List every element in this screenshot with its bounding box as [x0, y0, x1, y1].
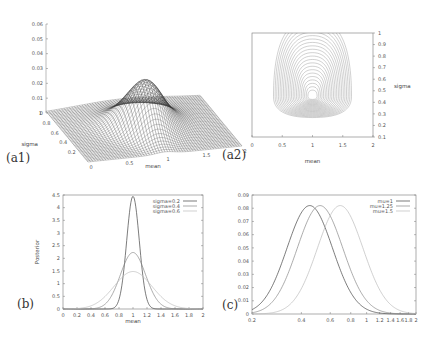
x-axis-label: mean	[305, 158, 321, 164]
y-tick-label: 0.7	[378, 64, 386, 70]
x-tick-label: 0.2	[248, 317, 256, 323]
mesh-line	[81, 129, 235, 153]
y-tick-label: 2.5	[52, 242, 60, 248]
y-tick-label: 0.02	[238, 284, 249, 290]
y-tick-label: 1	[57, 280, 60, 286]
series-line	[252, 206, 416, 314]
x-tick-label: 1	[166, 156, 169, 162]
chart-a1: 00.010.020.030.040.050.060.20.40.60.8100…	[21, 21, 246, 170]
y-tick-label: 0.01	[238, 297, 249, 303]
x-tick-label: 1	[365, 317, 368, 323]
z-tick-label: 0.06	[32, 21, 43, 27]
y-tick-label: 0.5	[378, 87, 386, 93]
x-tick-label: 1.2	[143, 312, 151, 318]
x-tick-label: 0	[89, 164, 92, 170]
y-tick-label: 0.03	[238, 271, 249, 277]
panel-label-c: (c)	[222, 298, 238, 312]
x-tick-label: 0.8	[347, 317, 355, 323]
x-tick-label: 0.6	[326, 317, 334, 323]
y-tick-label: 0.6	[378, 76, 386, 82]
x-tick-label: 0	[250, 142, 253, 148]
y-tick-label: 0.2	[378, 122, 386, 128]
plot-frame	[252, 33, 373, 137]
y-tick-label: 3	[57, 230, 60, 236]
chart-b: 00.20.40.60.811.21.41.61.8200.511.522.53…	[34, 192, 205, 324]
x-tick-label: 0.6	[101, 312, 109, 318]
y-tick-label: 4	[57, 204, 60, 210]
y-tick-label: 0.4	[378, 99, 386, 105]
y-tick-label: 1	[39, 110, 42, 116]
y-tick-label: 0	[57, 306, 60, 312]
legend-entry: mu=1.5	[373, 208, 393, 214]
y-tick-label: 2	[57, 255, 60, 261]
y-tick-label: 0.9	[378, 41, 386, 47]
contour-lines	[274, 19, 352, 118]
mesh-line	[67, 79, 221, 136]
y-tick-label: 0.1	[378, 134, 386, 140]
contour-line	[308, 90, 317, 99]
x-tick-label: 1.2	[376, 317, 384, 323]
x-tick-label: 0	[61, 312, 64, 318]
x-tick-label: 0.5	[126, 160, 134, 166]
y-tick-label: 0.07	[238, 218, 249, 224]
x-tick-label: 0.5	[278, 142, 286, 148]
z-tick-label: 0.04	[32, 50, 43, 56]
y-tick-label: 0.04	[238, 258, 249, 264]
contour-line	[288, 49, 337, 110]
series-line	[63, 272, 203, 309]
x-tick-label: 1.8	[405, 317, 413, 323]
x-tick-label: 0.2	[73, 312, 81, 318]
mesh-line	[57, 100, 211, 124]
series-line	[252, 206, 416, 314]
y-axis-label: Posterior	[34, 239, 40, 264]
y-axis-label: sigma	[394, 83, 411, 90]
x-tick-label: 2	[201, 312, 204, 318]
x-tick-label: 1.8	[185, 312, 193, 318]
mesh-line	[86, 143, 240, 159]
x-axis-label: mean	[125, 318, 141, 324]
y-tick-label: 0.3	[378, 111, 386, 117]
x-tick-label: 1	[311, 142, 314, 148]
y-tick-label: 0.4	[59, 139, 67, 145]
y-tick-label: 0.08	[238, 205, 249, 211]
panel-label-b: (b)	[17, 297, 34, 311]
contour-line	[295, 63, 330, 106]
x-tick-label: 2	[414, 317, 417, 323]
y-tick-label: 0.05	[238, 245, 249, 251]
x-tick-label: 1.4	[157, 312, 165, 318]
chart-a2: 00.511.520.10.20.30.40.50.60.70.80.91mea…	[250, 19, 410, 164]
x-tick-label: 0.8	[115, 312, 123, 318]
contour-line	[301, 77, 323, 103]
plot-frame	[63, 195, 203, 309]
y-tick-label: 0.06	[238, 231, 249, 237]
legend-entry: sigma=0.6	[153, 208, 180, 215]
mesh-line	[105, 98, 147, 155]
z-tick-label: 0.01	[32, 95, 43, 101]
y-tick-label: 0.8	[42, 120, 50, 126]
y-tick-label: 0.09	[238, 192, 249, 198]
y-axis-label: sigma	[21, 141, 38, 148]
y-tick-label: 0.5	[52, 293, 60, 299]
x-tick-label: 1.5	[339, 142, 347, 148]
y-tick-label: 4.5	[52, 192, 60, 198]
mesh-line	[120, 80, 162, 152]
y-tick-label: 1.5	[52, 268, 60, 274]
y-tick-label: 3.5	[52, 217, 60, 223]
z-tick-label: 0.02	[32, 80, 43, 86]
x-tick-label: 1.6	[396, 317, 404, 323]
series-line	[252, 206, 416, 314]
chart-c: 0.20.40.60.811.21.41.61.8200.010.020.030…	[238, 192, 418, 323]
x-tick-label: 1.5	[203, 152, 211, 158]
z-tick-label: 0.03	[32, 65, 43, 71]
panel-label-a2: (a2)	[222, 148, 246, 162]
y-tick-label: 0.6	[51, 130, 59, 136]
x-axis-label: mean	[145, 163, 161, 169]
x-tick-label: 2	[371, 142, 374, 148]
y-tick-label: 0.8	[378, 53, 386, 59]
x-tick-label: 0.4	[87, 312, 95, 318]
y-tick-label: 0.2	[68, 149, 76, 155]
y-tick-label: 1	[378, 30, 381, 36]
series-line	[63, 253, 203, 309]
z-tick-label: 0.05	[32, 36, 43, 42]
x-tick-label: 1.6	[171, 312, 179, 318]
